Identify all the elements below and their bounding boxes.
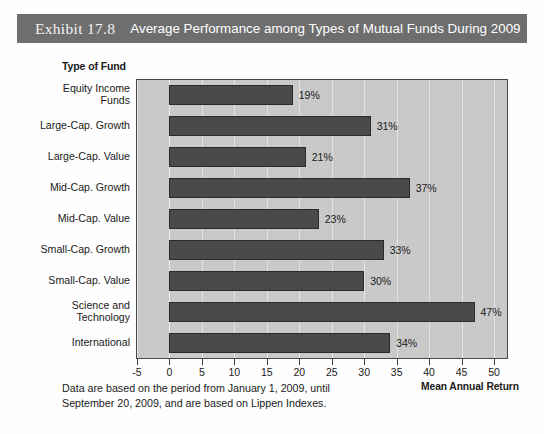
exhibit-title: Average Performance among Types of Mutua… — [115, 21, 520, 36]
x-tick-label: -5 — [132, 366, 141, 378]
x-axis-title: Mean Annual Return — [409, 381, 531, 392]
bar-value-label: 23% — [325, 209, 346, 229]
x-tick-label: 15 — [261, 366, 273, 378]
x-tick — [299, 359, 300, 365]
bar-value-label: 47% — [481, 302, 502, 322]
x-tick — [397, 359, 398, 365]
x-tick-label: 30 — [358, 366, 370, 378]
gridline — [137, 80, 138, 358]
category-label: Large-Cap. Value — [10, 150, 130, 162]
x-axis: -505101520253035404550 — [136, 359, 508, 383]
figure-footnote: Data are based on the period from Januar… — [62, 381, 392, 411]
category-label: International — [10, 336, 130, 348]
bar — [169, 178, 409, 198]
category-label: Mid-Cap. Growth — [10, 181, 130, 193]
bar — [169, 116, 370, 136]
bar-value-label: 33% — [390, 240, 411, 260]
x-tick — [462, 359, 463, 365]
x-tick-label: 25 — [326, 366, 338, 378]
x-tick — [364, 359, 365, 365]
y-axis-header: Type of Fund — [62, 60, 126, 72]
plot-area: 19%31%21%37%23%33%30%47%34% — [136, 79, 508, 359]
x-tick — [267, 359, 268, 365]
bar — [169, 209, 318, 229]
bar-value-label: 34% — [396, 333, 417, 353]
bar-value-label: 37% — [416, 178, 437, 198]
bar-value-label: 21% — [312, 147, 333, 167]
bar — [169, 333, 390, 353]
category-label-list: Equity Income FundsLarge-Cap. GrowthLarg… — [8, 79, 130, 359]
x-tick-label: 20 — [293, 366, 305, 378]
x-tick — [202, 359, 203, 365]
x-tick-label: 5 — [199, 366, 205, 378]
category-label: Large-Cap. Growth — [10, 119, 130, 131]
x-tick — [332, 359, 333, 365]
bar — [169, 271, 364, 291]
bar-value-label: 30% — [370, 271, 391, 291]
x-tick-label: 0 — [167, 366, 173, 378]
x-tick-label: 40 — [423, 366, 435, 378]
bar — [169, 85, 292, 105]
x-tick — [169, 359, 170, 365]
bar-value-label: 31% — [377, 116, 398, 136]
bar — [169, 302, 474, 322]
x-tick-label: 35 — [391, 366, 403, 378]
exhibit-title-bar: Exhibit 17.8 Average Performance among T… — [17, 14, 527, 43]
x-tick-label: 45 — [456, 366, 468, 378]
footnote-line-1: Data are based on the period from Januar… — [62, 381, 392, 396]
x-tick — [494, 359, 495, 365]
category-label: Small-Cap. Growth — [10, 243, 130, 255]
category-label: Mid-Cap. Value — [10, 212, 130, 224]
category-label: Equity Income Funds — [10, 82, 130, 106]
bar-value-label: 19% — [299, 85, 320, 105]
bar — [169, 147, 305, 167]
footnote-line-2: September 20, 2009, and are based on Lip… — [62, 396, 392, 411]
category-label: Small-Cap. Value — [10, 274, 130, 286]
bar — [169, 240, 383, 260]
x-tick — [234, 359, 235, 365]
exhibit-number: Exhibit 17.8 — [17, 20, 115, 38]
x-tick-label: 10 — [229, 366, 241, 378]
exhibit-figure: Exhibit 17.8 Average Performance among T… — [0, 0, 544, 434]
x-tick — [429, 359, 430, 365]
category-label: Science and Technology — [10, 299, 130, 323]
x-tick — [137, 359, 138, 365]
x-tick-label: 50 — [488, 366, 500, 378]
